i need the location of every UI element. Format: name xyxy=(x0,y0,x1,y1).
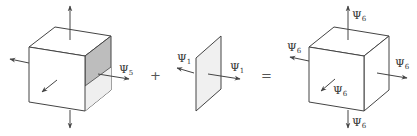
flux-diagram: Ψ5 + Ψ1 Ψ1 = Ψ6 Ψ6 Ψ6 Ψ6 Ψ6 xyxy=(0,0,417,136)
psi6-top: Ψ6 xyxy=(352,9,367,23)
plane: Ψ1 Ψ1 xyxy=(177,36,244,111)
plane-psi-left: Ψ1 xyxy=(177,52,191,66)
equals-operator: = xyxy=(261,68,272,83)
left-cube: Ψ5 xyxy=(10,6,133,128)
psi6-bottom: Ψ6 xyxy=(352,116,367,130)
psi6-left: Ψ6 xyxy=(287,41,302,55)
plus-operator: + xyxy=(150,68,161,83)
left-cube-psi-label: Ψ5 xyxy=(119,63,133,77)
psi6-right: Ψ6 xyxy=(395,57,410,71)
plane-psi-right: Ψ1 xyxy=(230,61,244,75)
right-cube: Ψ6 Ψ6 Ψ6 Ψ6 Ψ6 xyxy=(287,6,410,130)
